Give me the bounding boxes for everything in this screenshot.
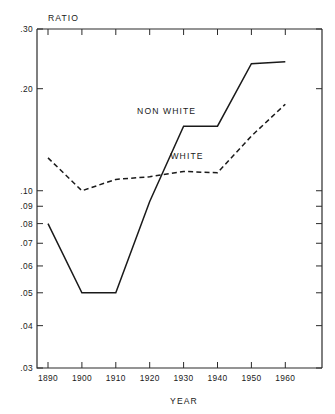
y-tick-label: .10 bbox=[20, 186, 33, 196]
y-axis-ticks: .30.20.10.09.08.07.06.05.04.03 bbox=[20, 24, 43, 373]
annotation-white: WHITE bbox=[170, 151, 203, 161]
x-tick-label: 1950 bbox=[241, 373, 261, 383]
y-tick-label: .05 bbox=[20, 288, 33, 298]
x-axis-ticks: 18901900191019201930194019501960 bbox=[38, 362, 295, 383]
series-line-white bbox=[48, 104, 285, 191]
x-axis-title: YEAR bbox=[170, 396, 198, 406]
series-line-non-white bbox=[48, 62, 285, 293]
x-tick-label: 1900 bbox=[72, 373, 92, 383]
y-tick-label: .04 bbox=[20, 321, 33, 331]
y-axis-title: RATIO bbox=[48, 13, 79, 23]
axis-lines bbox=[37, 29, 322, 368]
right-axis-ticks bbox=[316, 29, 322, 368]
y-tick-label: .06 bbox=[20, 261, 33, 271]
y-tick-label: .20 bbox=[20, 84, 33, 94]
data-series-group bbox=[48, 62, 285, 293]
x-tick-label: 1890 bbox=[38, 373, 58, 383]
series-annotations: NON WHITEWHITE bbox=[137, 106, 203, 161]
x-tick-label: 1930 bbox=[174, 373, 194, 383]
y-tick-label: .03 bbox=[20, 363, 33, 373]
x-tick-label: 1940 bbox=[207, 373, 227, 383]
x-tick-label: 1910 bbox=[106, 373, 126, 383]
plot-frame bbox=[37, 29, 322, 368]
y-tick-label: .30 bbox=[20, 24, 33, 34]
y-tick-label: .08 bbox=[20, 219, 33, 229]
chart-container: .30.20.10.09.08.07.06.05.04.03 189019001… bbox=[0, 0, 335, 414]
y-tick-label: .07 bbox=[20, 238, 33, 248]
top-axis-ticks bbox=[48, 29, 285, 35]
x-tick-label: 1960 bbox=[275, 373, 295, 383]
x-tick-label: 1920 bbox=[140, 373, 160, 383]
y-tick-label: .09 bbox=[20, 201, 33, 211]
annotation-non-white: NON WHITE bbox=[137, 106, 196, 116]
line-chart: .30.20.10.09.08.07.06.05.04.03 189019001… bbox=[0, 0, 335, 414]
